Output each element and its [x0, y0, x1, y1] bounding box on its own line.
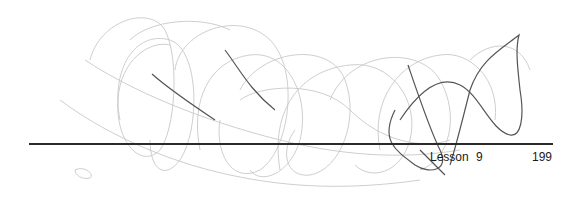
lesson-label: Lesson 9	[430, 150, 483, 164]
footer-rule	[29, 143, 553, 145]
page-number: 199	[532, 150, 552, 164]
scribble-line-art-icon	[0, 0, 566, 202]
